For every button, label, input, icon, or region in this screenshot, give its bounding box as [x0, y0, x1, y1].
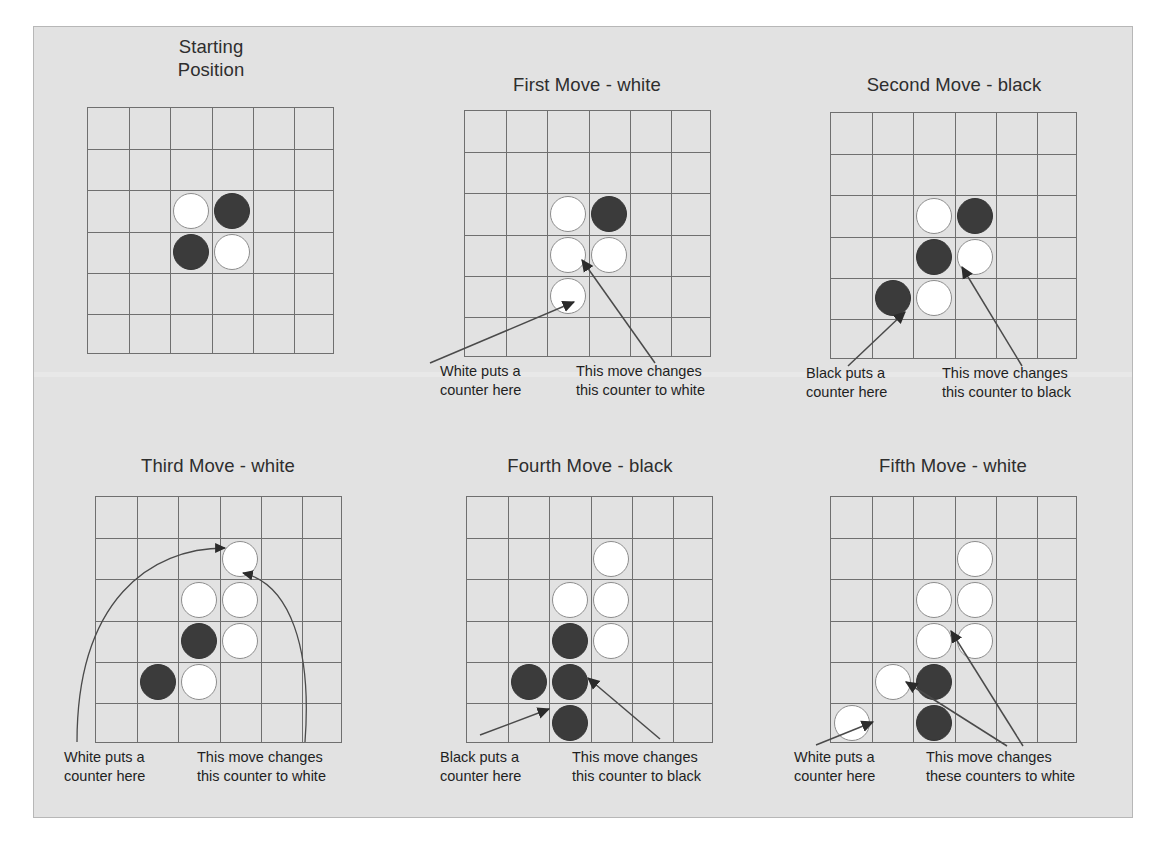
- game-piece-black[interactable]: [591, 196, 627, 232]
- board-gridline-vertical: [1037, 497, 1038, 742]
- board-gridline-vertical: [913, 113, 914, 358]
- board-gridline-vertical: [549, 497, 550, 742]
- game-piece-white[interactable]: [550, 278, 586, 314]
- board-gridline-horizontal: [465, 193, 710, 194]
- board-gridline-horizontal: [831, 237, 1076, 238]
- game-piece-white[interactable]: [181, 664, 217, 700]
- board-gridline-horizontal: [831, 195, 1076, 196]
- board-gridline-vertical: [955, 113, 956, 358]
- game-piece-black[interactable]: [916, 705, 952, 741]
- game-piece-white[interactable]: [181, 582, 217, 618]
- game-piece-white[interactable]: [550, 237, 586, 273]
- board-gridline-horizontal: [831, 154, 1076, 155]
- game-piece-black[interactable]: [957, 198, 993, 234]
- panel-title-second-move-black: Second Move - black: [814, 74, 1094, 97]
- board-gridline-vertical: [506, 111, 507, 356]
- game-piece-white[interactable]: [222, 623, 258, 659]
- game-piece-black[interactable]: [552, 664, 588, 700]
- game-piece-white[interactable]: [957, 623, 993, 659]
- game-piece-black[interactable]: [552, 623, 588, 659]
- game-piece-white[interactable]: [214, 234, 250, 270]
- board-gridline-vertical: [212, 108, 213, 353]
- game-piece-black[interactable]: [875, 280, 911, 316]
- game-piece-white[interactable]: [957, 239, 993, 275]
- caption-flip-first-move-white: This move changes this counter to white: [576, 362, 766, 400]
- board-gridline-vertical: [632, 497, 633, 742]
- game-piece-white[interactable]: [916, 280, 952, 316]
- game-piece-black[interactable]: [916, 239, 952, 275]
- game-piece-white[interactable]: [222, 541, 258, 577]
- board-gridline-horizontal: [467, 703, 712, 704]
- game-piece-black[interactable]: [140, 664, 176, 700]
- game-piece-black[interactable]: [214, 193, 250, 229]
- board-gridline-horizontal: [467, 621, 712, 622]
- board-gridline-vertical: [261, 497, 262, 742]
- board-gridline-vertical: [220, 497, 221, 742]
- board-gridline-vertical: [673, 497, 674, 742]
- board-gridline-vertical: [996, 497, 997, 742]
- panel-title-fifth-move-white: Fifth Move - white: [820, 455, 1086, 478]
- board-gridline-vertical: [129, 108, 130, 353]
- board-gridline-horizontal: [96, 662, 341, 663]
- board-gridline-horizontal: [467, 662, 712, 663]
- game-piece-white[interactable]: [222, 582, 258, 618]
- game-piece-black[interactable]: [173, 234, 209, 270]
- game-piece-black[interactable]: [181, 623, 217, 659]
- board-gridline-vertical: [591, 497, 592, 742]
- board-gridline-horizontal: [465, 276, 710, 277]
- game-piece-white[interactable]: [875, 664, 911, 700]
- caption-flip-fourth-move-black: This move changes this counter to black: [572, 748, 767, 786]
- caption-flip-second-move-black: This move changes this counter to black: [942, 364, 1132, 402]
- board-gridline-vertical: [178, 497, 179, 742]
- board-gridline-horizontal: [96, 538, 341, 539]
- board-gridline-vertical: [508, 497, 509, 742]
- game-piece-white[interactable]: [916, 198, 952, 234]
- game-piece-white[interactable]: [916, 623, 952, 659]
- board-gridline-horizontal: [465, 152, 710, 153]
- game-piece-white[interactable]: [173, 193, 209, 229]
- panel-title-starting-position: Starting Position: [87, 36, 335, 81]
- board-gridline-horizontal: [831, 621, 1076, 622]
- board-gridline-vertical: [302, 497, 303, 742]
- game-piece-white[interactable]: [593, 623, 629, 659]
- board-second-move-black[interactable]: [830, 112, 1077, 359]
- panel-starting-position: Starting Position: [87, 36, 347, 366]
- board-gridline-vertical: [872, 497, 873, 742]
- board-first-move-white[interactable]: [464, 110, 711, 357]
- game-piece-black[interactable]: [552, 705, 588, 741]
- board-gridline-vertical: [671, 111, 672, 356]
- board-gridline-horizontal: [88, 149, 333, 150]
- caption-flip-third-move-white: This move changes this counter to white: [197, 748, 392, 786]
- game-piece-black[interactable]: [511, 664, 547, 700]
- caption-place-third-move-white: White puts a counter here: [64, 748, 194, 786]
- board-fourth-move-black[interactable]: [466, 496, 713, 743]
- board-gridline-vertical: [253, 108, 254, 353]
- board-gridline-horizontal: [831, 538, 1076, 539]
- caption-place-fifth-move-white: White puts a counter here: [794, 748, 924, 786]
- caption-place-fourth-move-black: Black puts a counter here: [440, 748, 570, 786]
- panel-fifth-move-white: Fifth Move - white White puts a counter …: [830, 455, 1100, 815]
- game-piece-black[interactable]: [916, 664, 952, 700]
- board-gridline-vertical: [996, 113, 997, 358]
- panel-first-move-white: First Move - white White puts a counter …: [464, 36, 724, 396]
- board-gridline-vertical: [913, 497, 914, 742]
- game-piece-white[interactable]: [552, 582, 588, 618]
- board-gridline-vertical: [137, 497, 138, 742]
- game-piece-white[interactable]: [593, 541, 629, 577]
- game-piece-white[interactable]: [593, 582, 629, 618]
- board-gridline-vertical: [955, 497, 956, 742]
- game-piece-white[interactable]: [550, 196, 586, 232]
- board-starting-position[interactable]: [87, 107, 334, 354]
- board-gridline-horizontal: [831, 703, 1076, 704]
- board-gridline-vertical: [872, 113, 873, 358]
- game-piece-white[interactable]: [957, 541, 993, 577]
- board-fifth-move-white[interactable]: [830, 496, 1077, 743]
- game-piece-white[interactable]: [957, 582, 993, 618]
- board-gridline-horizontal: [467, 579, 712, 580]
- board-third-move-white[interactable]: [95, 496, 342, 743]
- board-gridline-vertical: [630, 111, 631, 356]
- game-piece-white[interactable]: [834, 705, 870, 741]
- game-piece-white[interactable]: [916, 582, 952, 618]
- game-piece-white[interactable]: [591, 237, 627, 273]
- board-gridline-horizontal: [831, 579, 1076, 580]
